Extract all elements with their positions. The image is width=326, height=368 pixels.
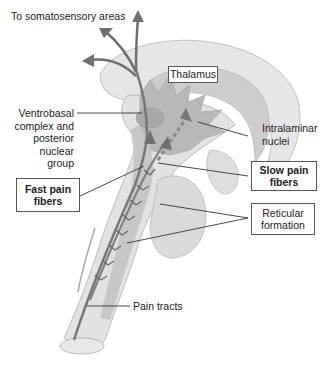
somatosensory-label: To somatosensory areas — [11, 10, 125, 23]
thalamus-label: Thalamus — [170, 68, 216, 81]
pain-tracts-label: Pain tracts — [133, 300, 183, 313]
cerebellum-lobe — [150, 176, 206, 258]
fast-pain-label-box: Fast pain fibers — [16, 178, 80, 212]
ventrobasal-label: Ventrobasal complex and posterior nuclea… — [8, 107, 74, 170]
slow-pain-label-box: Slow pain fibers — [251, 161, 317, 191]
spinal-cord-section — [60, 338, 104, 354]
ventrobasal-complex — [136, 108, 164, 128]
reticular-label-box: Reticular formation — [251, 203, 315, 235]
intralaminar-label: Intralaminar nuclei — [262, 122, 317, 147]
thalamus-label-box: Thalamus — [168, 66, 218, 83]
